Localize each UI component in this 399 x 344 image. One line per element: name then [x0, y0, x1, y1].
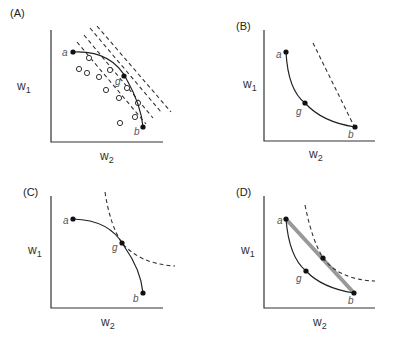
panel-a-y-label: w1 — [16, 79, 31, 95]
panel-b-label-g: g — [296, 106, 302, 117]
panel-d-label: (D) — [236, 186, 251, 198]
panel-b-dashed-line — [313, 43, 354, 126]
panel-a-x-label: w2 — [99, 149, 114, 165]
panel-c-point-g — [119, 240, 124, 245]
panel-c-label-a: a — [63, 215, 69, 226]
panel-c-y-label: w1 — [27, 243, 42, 259]
panel-b-label-a: a — [276, 49, 282, 60]
panel-c-label: (C) — [23, 186, 38, 198]
panel-a-label-a: a — [62, 47, 68, 58]
panel-d: (D) w1 w2 a g b — [236, 186, 375, 331]
panel-b-x-label: w2 — [308, 147, 323, 163]
panel-d-x-label: w2 — [312, 315, 327, 331]
panel-a-point-b — [140, 124, 145, 129]
panel-b: (B) w1 w2 a g b — [236, 20, 375, 163]
panel-d-label-g: g — [296, 273, 302, 284]
panel-c-frontier-curve — [73, 219, 143, 293]
panel-b-label-b: b — [348, 129, 354, 140]
panel-b-axes — [264, 30, 375, 141]
panel-a-label: (A) — [10, 7, 25, 19]
panel-d-point-a — [283, 216, 288, 221]
panel-a-point-g — [121, 73, 126, 78]
panel-a: (A) w1 w2 a g b — [10, 7, 171, 165]
panel-c-point-b — [140, 290, 145, 295]
panel-a-dashed-line-1 — [77, 42, 146, 124]
panel-c-point-a — [70, 216, 75, 221]
panel-c-indifference-curve — [105, 192, 175, 266]
panel-d-y-label: w1 — [240, 243, 255, 259]
panel-c-label-g: g — [112, 242, 118, 253]
panel-b-y-label: w1 — [242, 77, 257, 93]
panel-d-point-tangent — [320, 255, 325, 260]
panel-c-label-b: b — [133, 293, 139, 304]
panel-c-x-label: w2 — [100, 315, 115, 331]
figure-canvas: (A) w1 w2 a g b — [0, 0, 399, 344]
panel-d-label-a: a — [277, 215, 283, 226]
panel-b-point-a — [283, 49, 288, 54]
panel-d-point-g — [303, 268, 308, 273]
panel-d-indifference-curve — [305, 205, 375, 281]
panel-b-label: (B) — [236, 20, 251, 32]
panel-b-point-g — [302, 100, 307, 105]
panel-c-axes — [51, 196, 163, 308]
panel-a-point-a — [70, 49, 75, 54]
panel-c: (C) w1 w2 a g b — [23, 186, 175, 331]
panel-d-label-b: b — [348, 295, 354, 306]
panel-a-label-b: b — [134, 126, 140, 137]
panel-a-label-g: g — [115, 76, 121, 87]
panel-a-axes — [51, 30, 163, 142]
